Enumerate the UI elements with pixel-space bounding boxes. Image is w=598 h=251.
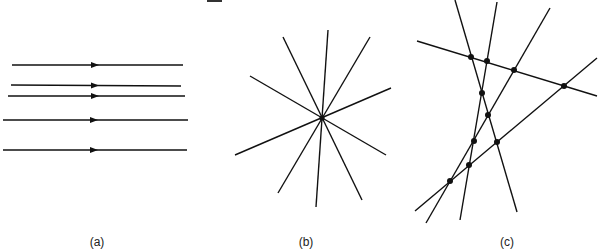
line-c-2: [455, 0, 517, 212]
intersection-point: [447, 178, 453, 184]
intersection-point: [511, 67, 517, 73]
intersection-point: [466, 162, 472, 168]
arrow-icon: [90, 117, 98, 123]
arrow-icon: [90, 147, 98, 153]
intersection-point: [471, 138, 477, 144]
label-b: (b): [299, 235, 314, 249]
intersection-point: [484, 58, 490, 64]
line-b-3: [278, 37, 370, 193]
panel-b-concurrent-lines: [235, 30, 391, 207]
intersection-point: [468, 54, 474, 60]
figure-canvas: (a) (b) (c): [0, 0, 598, 251]
intersection-point: [561, 83, 567, 89]
line-c-1: [417, 41, 597, 96]
intersection-point: [479, 90, 485, 96]
line-b-4: [250, 76, 386, 155]
scan-artifact: [207, 0, 222, 2]
label-c: (c): [500, 235, 514, 249]
label-a: (a): [90, 235, 105, 249]
line-c-5: [415, 58, 597, 211]
intersection-point: [485, 112, 491, 118]
intersection-point: [494, 139, 500, 145]
concurrency-point: [319, 115, 324, 120]
arrow-icon: [91, 62, 99, 68]
arrow-icon: [91, 93, 99, 99]
arrow-icon: [91, 82, 99, 88]
panel-c-general-position-lines: [415, 0, 597, 223]
panel-a-parallel-lines: [3, 62, 188, 153]
